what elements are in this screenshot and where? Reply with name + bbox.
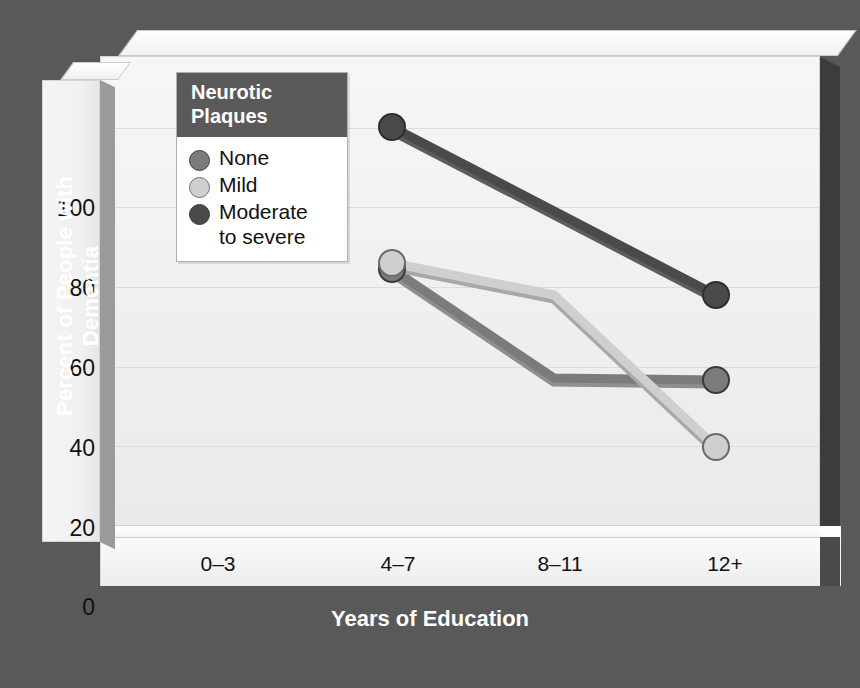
floor-front-edge (100, 526, 820, 538)
y-tick-20: 20 (43, 517, 95, 540)
panel-right-face (818, 56, 840, 587)
x-tick-8-11: 8–11 (490, 552, 630, 576)
floor-right-face (820, 537, 840, 586)
legend-label-moderate-line2: to severe (219, 225, 305, 248)
x-tick-4-7: 4–7 (328, 552, 468, 576)
panel-top-face (118, 30, 857, 56)
legend-label-none: None (219, 146, 269, 170)
legend-item-mild[interactable]: Mild (189, 173, 347, 198)
legend-title: Neurotic Plaques (177, 73, 347, 137)
y-axis-title: Percent of People with Dementia (52, 136, 104, 456)
gridline-40 (100, 367, 820, 368)
legend-item-none[interactable]: None (189, 146, 347, 171)
gridline-60 (100, 287, 820, 288)
gridline-20 (100, 446, 820, 447)
x-tick-0-3: 0–3 (148, 552, 288, 576)
legend-swatch-moderate-icon (189, 204, 210, 225)
legend-item-moderate[interactable]: Moderate to severe (189, 200, 347, 249)
legend-title-line2: Plaques (191, 105, 347, 129)
legend-label-mild: Mild (219, 173, 258, 197)
legend-label-moderate-line1: Moderate (219, 200, 308, 223)
legend-items: None Mild Moderate to severe (177, 137, 347, 261)
legend: Neurotic Plaques None Mild Moderate to s… (176, 72, 348, 262)
x-tick-12plus: 12+ (655, 552, 795, 576)
chart-figure: 100 80 60 40 20 0 Percent of People with… (0, 0, 860, 688)
legend-title-line1: Neurotic (191, 81, 347, 105)
legend-swatch-none-icon (189, 150, 210, 171)
legend-label-moderate: Moderate to severe (219, 200, 308, 249)
x-axis-title: Years of Education (0, 606, 860, 632)
legend-swatch-mild-icon (189, 177, 210, 198)
